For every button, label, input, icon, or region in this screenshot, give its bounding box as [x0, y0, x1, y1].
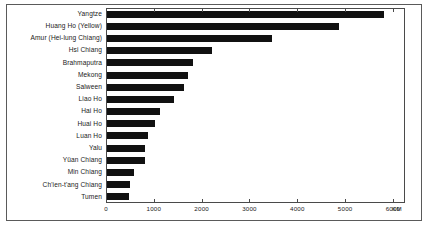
bar	[107, 181, 130, 188]
bar	[107, 169, 134, 176]
bar	[107, 11, 384, 18]
bar	[107, 84, 184, 91]
category-label: Huang Ho (Yellow)	[8, 22, 102, 30]
bar	[107, 145, 145, 152]
x-tick-top	[106, 8, 107, 12]
x-tick-top	[249, 8, 250, 12]
x-tick-bottom	[345, 199, 346, 203]
x-tick-label: 5000	[325, 205, 365, 212]
category-label: Min Chiang	[8, 168, 102, 176]
category-label: Luan Ho	[8, 132, 102, 140]
category-label: Tumen	[8, 193, 102, 201]
x-tick-label: 4000	[277, 205, 317, 212]
category-label: Yüan Chiang	[8, 156, 102, 164]
x-tick-bottom	[154, 199, 155, 203]
x-tick-bottom	[393, 199, 394, 203]
category-label: Ch'ien-t'ang Chiang	[8, 181, 102, 189]
category-label: Mekong	[8, 71, 102, 79]
x-tick-label: 0	[86, 205, 126, 212]
category-label: Hsi Chiang	[8, 46, 102, 54]
category-label: Brahmaputra	[8, 59, 102, 67]
x-tick-bottom	[297, 199, 298, 203]
bar	[107, 72, 188, 79]
x-tick-top	[345, 8, 346, 12]
category-label: Hai Ho	[8, 107, 102, 115]
category-label: Huai Ho	[8, 120, 102, 128]
x-tick-top	[297, 8, 298, 12]
category-label: Amur (Hei-lung Chiang)	[8, 34, 102, 42]
x-tick-top	[393, 8, 394, 12]
category-label: Yalu	[8, 144, 102, 152]
x-tick-bottom	[106, 199, 107, 203]
category-label: Salween	[8, 83, 102, 91]
x-tick-label: 6000	[373, 205, 413, 212]
x-tick-label: 1000	[134, 205, 174, 212]
bar	[107, 96, 174, 103]
category-label: Liao Ho	[8, 95, 102, 103]
bar	[107, 47, 212, 54]
category-label-column: YangtzeHuang Ho (Yellow)Amur (Hei-lung C…	[8, 8, 102, 198]
x-tick-bottom	[249, 199, 250, 203]
bar	[107, 193, 129, 200]
bar	[107, 120, 155, 127]
chart-figure: YangtzeHuang Ho (Yellow)Amur (Hei-lung C…	[0, 0, 428, 229]
x-tick-label: 3000	[229, 205, 269, 212]
bar	[107, 59, 193, 66]
bar-series	[107, 8, 405, 203]
bar	[107, 132, 148, 139]
x-tick-top	[202, 8, 203, 12]
bar	[107, 35, 272, 42]
x-tick-bottom	[202, 199, 203, 203]
bar	[107, 23, 339, 30]
category-label: Yangtze	[8, 10, 102, 18]
bar	[107, 157, 145, 164]
x-tick-label: 2000	[182, 205, 222, 212]
x-tick-top	[154, 8, 155, 12]
bar	[107, 108, 160, 115]
